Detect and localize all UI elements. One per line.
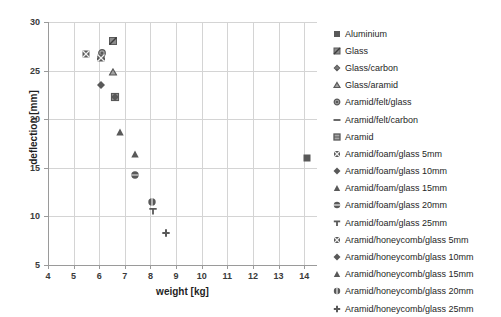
data-point-square-crossed [96,53,105,62]
x-axis-tick [176,265,177,269]
gridline-horizontal [48,22,317,23]
gridline-vertical [279,22,280,265]
legend-item[interactable]: Glass/aramid [331,77,501,94]
legend-marker-tee-icon [331,217,343,229]
x-axis-tick [125,265,126,269]
legend-item-label: Aramid [343,132,374,142]
data-point-square-filled [302,154,311,163]
legend-item[interactable]: Glass [331,42,501,59]
x-axis-tick-label: 12 [248,271,258,281]
gridline-vertical [150,22,151,265]
gridline-horizontal [48,119,317,120]
legend-item[interactable]: Aramid/foam/glass 25mm [331,214,501,231]
gridline-vertical [227,22,228,265]
legend-item[interactable]: Aramid/felt/carbon [331,111,501,128]
y-axis-tick-label: 20 [30,114,40,124]
legend-marker-triangle-filled-icon [331,268,343,280]
legend-item[interactable]: Aramid/foam/glass 15mm [331,180,501,197]
x-axis-tick [150,265,151,269]
legend-item-label: Glass [343,46,368,56]
x-axis-title: weight [kg] [48,286,317,297]
legend-item[interactable]: Glass/carbon [331,59,501,76]
data-point-triangle-filled [131,150,140,159]
plot-area [48,22,317,265]
gridline-vertical [202,22,203,265]
legend-marker-dash-icon [331,114,343,126]
legend-item[interactable]: Aramid/foam/glass 20mm [331,197,501,214]
x-axis-tick [99,265,100,269]
data-point-triangle-open [109,68,118,77]
y-axis-tick-label: 25 [30,66,40,76]
gridline-vertical [125,22,126,265]
legend-item[interactable]: Aramid/foam/glass 10mm [331,163,501,180]
legend-marker-square-crossed-icon [331,234,343,246]
x-axis-line [48,265,317,266]
y-axis-tick [44,119,48,120]
legend-item-label: Glass/carbon [343,63,398,73]
legend-item[interactable]: Aramid/honeycomb/glass 10mm [331,248,501,265]
legend: Aluminium Glass Glass/carbonGlass/aramid… [331,25,501,317]
legend-item-label: Aramid/felt/carbon [343,115,418,125]
data-point-circle-split [147,197,156,206]
legend-marker-square-crossed-icon [331,148,343,160]
x-axis-tick-label: 9 [174,271,179,281]
y-axis-tick-label: 15 [30,163,40,173]
x-axis-tick [74,265,75,269]
legend-item[interactable]: Aramid/felt/glass [331,94,501,111]
gridline-vertical [74,22,75,265]
x-axis-tick [304,265,305,269]
data-point-triangle-filled [115,128,124,137]
y-axis-tick [44,168,48,169]
gridline-vertical [253,22,254,265]
data-point-diamond-filled [97,81,106,90]
legend-item-label: Aluminium [343,29,387,39]
legend-item[interactable]: Aramid/honeycomb/glass 20mm [331,283,501,300]
legend-item[interactable]: Aramid/foam/glass 5mm [331,145,501,162]
gridline-vertical [304,22,305,265]
legend-marker-square-filled-icon [331,28,343,40]
legend-item[interactable]: Aramid [331,128,501,145]
x-axis-tick-label: 13 [274,271,284,281]
legend-marker-circle-split-icon [331,285,343,297]
data-point-diamond-filled [110,92,119,101]
legend-item-label: Aramid/foam/glass 5mm [343,149,442,159]
legend-item[interactable]: Aramid/honeycomb/glass 5mm [331,231,501,248]
x-axis-tick-label: 8 [148,271,153,281]
gridline-horizontal [48,71,317,72]
x-axis-tick-label: 14 [299,271,309,281]
x-axis-tick [48,265,49,269]
gridline-vertical [176,22,177,265]
legend-marker-diamond-filled-icon [331,251,343,263]
legend-item-label: Glass/aramid [343,80,398,90]
y-axis-tick-label: 30 [30,17,40,27]
gridline-horizontal [48,216,317,217]
y-axis-tick [44,71,48,72]
legend-marker-square-outline-icon [331,131,343,143]
legend-item[interactable]: Aramid/honeycomb/glass 15mm [331,266,501,283]
legend-marker-circle-dot-icon [331,96,343,108]
x-axis-tick [202,265,203,269]
legend-marker-diamond-small-icon [331,62,343,74]
legend-marker-triangle-filled-icon [331,182,343,194]
legend-item-label: Aramid/foam/glass 20mm [343,200,447,210]
legend-marker-square-hatched-icon [331,45,343,57]
data-point-square-hatched [108,37,117,46]
legend-item-label: Aramid/foam/glass 15mm [343,183,447,193]
y-axis-tick-label: 10 [30,211,40,221]
legend-marker-circle-bar-icon [331,199,343,211]
legend-item-label: Aramid/honeycomb/glass 25mm [343,304,474,314]
legend-item-label: Aramid/foam/glass 25mm [343,218,447,228]
legend-item-label: Aramid/foam/glass 10mm [343,166,447,176]
legend-item-label: Aramid/honeycomb/glass 5mm [343,235,469,245]
legend-item[interactable]: Aramid/honeycomb/glass 25mm [331,300,501,317]
x-axis-tick-label: 7 [122,271,127,281]
x-axis-tick [253,265,254,269]
data-point-circle-bar [130,171,139,180]
y-axis-tick [44,216,48,217]
y-axis-tick-label: 5 [35,260,40,270]
x-axis-tick-label: 4 [45,271,50,281]
data-point-tee [148,207,157,216]
legend-item[interactable]: Aluminium [331,25,501,42]
y-axis-line [48,22,49,266]
